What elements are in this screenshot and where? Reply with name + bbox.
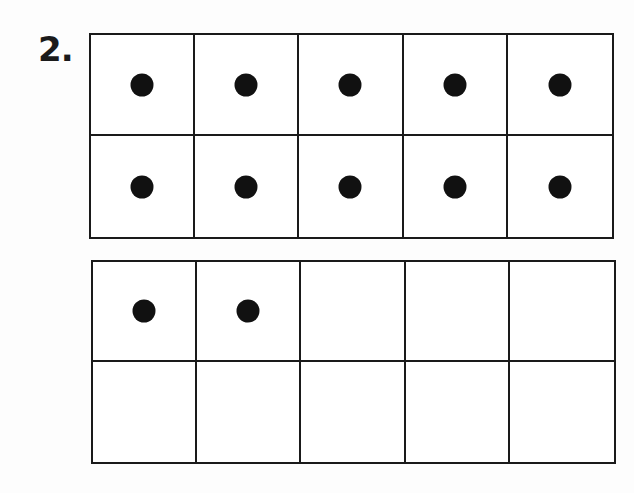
- frame-cell: [508, 35, 612, 136]
- ten-frame-2: [91, 260, 616, 464]
- frame-cell: [93, 262, 197, 362]
- frame-cell: [197, 262, 301, 362]
- counter-dot-icon: [339, 175, 362, 198]
- frame-cell: [406, 362, 510, 462]
- counter-dot-icon: [235, 73, 258, 96]
- counter-dot-icon: [443, 73, 466, 96]
- frame-cell: [195, 136, 299, 237]
- frame-cell: [195, 35, 299, 136]
- counter-dot-icon: [237, 300, 260, 323]
- frame-cell: [404, 136, 508, 237]
- frame-cell: [299, 136, 403, 237]
- frame-cell: [404, 35, 508, 136]
- frame-cell: [510, 262, 614, 362]
- frame-cell: [91, 136, 195, 237]
- counter-dot-icon: [548, 175, 571, 198]
- frame-cell: [510, 362, 614, 462]
- frame-cell: [299, 35, 403, 136]
- counter-dot-icon: [131, 73, 154, 96]
- counter-dot-icon: [133, 300, 156, 323]
- frame-cell: [91, 35, 195, 136]
- frame-cell: [301, 262, 405, 362]
- frame-cell: [301, 362, 405, 462]
- frame-cell: [508, 136, 612, 237]
- frame-cell: [197, 362, 301, 462]
- counter-dot-icon: [339, 73, 362, 96]
- counter-dot-icon: [443, 175, 466, 198]
- counter-dot-icon: [548, 73, 571, 96]
- counter-dot-icon: [235, 175, 258, 198]
- problem-number: 2.: [38, 32, 73, 66]
- counter-dot-icon: [131, 175, 154, 198]
- ten-frame-1: [89, 33, 614, 239]
- frame-cell: [406, 262, 510, 362]
- frame-cell: [93, 362, 197, 462]
